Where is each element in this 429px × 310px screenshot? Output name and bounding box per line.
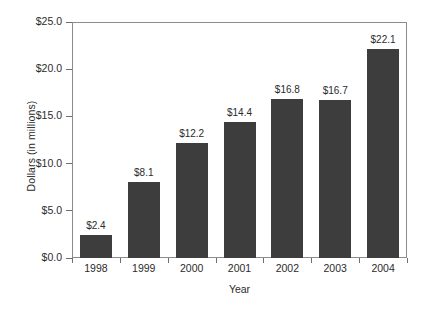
y-axis-tick-label: $20.0 <box>36 62 62 74</box>
bar <box>271 99 303 258</box>
bar <box>80 235 112 258</box>
y-axis-tick-label: $25.0 <box>36 15 62 27</box>
bar-value-label: $14.4 <box>210 107 270 118</box>
y-axis-tick-label: $0.0 <box>42 251 62 263</box>
bar <box>224 122 256 258</box>
y-axis-tick-label: $15.0 <box>36 109 62 121</box>
bar-chart: Dollars (in millions) $0.0$5.0$10.0$15.0… <box>0 0 429 310</box>
bar <box>128 182 160 258</box>
bar-value-label: $22.1 <box>353 34 413 45</box>
bar-value-label: $8.1 <box>114 167 174 178</box>
x-axis-title: Year <box>72 283 407 295</box>
y-axis-tick-label: $5.0 <box>42 204 62 216</box>
bar-value-label: $2.4 <box>66 220 126 231</box>
bar-value-label: $16.7 <box>305 85 365 96</box>
y-axis-tick-label: $10.0 <box>36 157 62 169</box>
bar <box>176 143 208 258</box>
bar <box>319 100 351 258</box>
y-axis-title: Dollars (in millions) <box>25 66 37 226</box>
x-axis-category-label: 2004 <box>353 262 413 274</box>
bar-value-label: $12.2 <box>162 128 222 139</box>
bar <box>367 49 399 258</box>
